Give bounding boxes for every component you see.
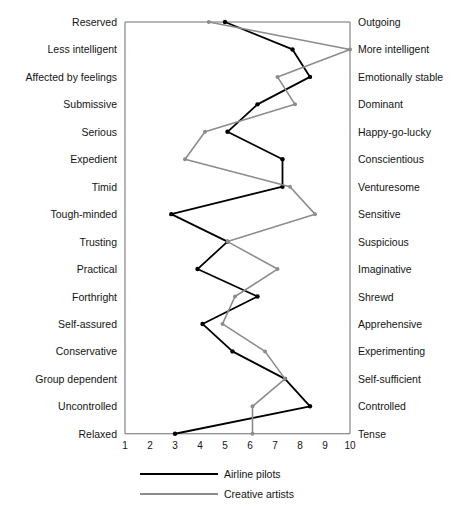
data-point bbox=[200, 322, 204, 326]
data-point bbox=[308, 75, 312, 79]
trait-label-left: Uncontrolled bbox=[58, 401, 117, 412]
legend-label: Creative artists bbox=[224, 488, 294, 500]
data-point bbox=[288, 185, 292, 189]
trait-label-right: Happy-go-lucky bbox=[358, 126, 431, 137]
plot-frame bbox=[125, 22, 350, 434]
data-point bbox=[293, 102, 297, 106]
data-point bbox=[183, 157, 187, 161]
data-point bbox=[169, 212, 173, 216]
data-point bbox=[226, 240, 230, 244]
trait-label-right: Imaginative bbox=[358, 264, 412, 275]
data-point bbox=[263, 349, 267, 353]
trait-label-right: Experimenting bbox=[358, 346, 425, 357]
series-airline-pilots bbox=[169, 20, 312, 436]
legend-item[interactable]: Airline pilots bbox=[140, 468, 281, 480]
trait-label-left: Timid bbox=[92, 181, 117, 192]
trait-label-left: Trusting bbox=[79, 236, 117, 247]
trait-label-right: More intelligent bbox=[358, 44, 429, 55]
x-tick-label: 6 bbox=[247, 440, 253, 451]
data-point bbox=[230, 349, 234, 353]
data-point bbox=[276, 267, 280, 271]
trait-label-right: Controlled bbox=[358, 401, 406, 412]
x-tick-label: 5 bbox=[222, 440, 228, 451]
trait-label-left: Affected by feelings bbox=[26, 71, 117, 82]
trait-label-left: Submissive bbox=[63, 99, 117, 110]
data-point bbox=[283, 377, 287, 381]
data-point bbox=[223, 20, 227, 24]
data-point bbox=[195, 267, 199, 271]
series-creative-artists bbox=[183, 20, 352, 436]
data-point bbox=[276, 75, 280, 79]
trait-label-left: Group dependent bbox=[35, 373, 117, 384]
x-tick-label: 10 bbox=[344, 440, 355, 451]
trait-label-left: Relaxed bbox=[78, 428, 117, 439]
trait-label-left: Expedient bbox=[70, 154, 117, 165]
data-point bbox=[251, 432, 255, 436]
data-point bbox=[173, 432, 177, 436]
legend-line-icon bbox=[140, 473, 218, 475]
data-point bbox=[308, 404, 312, 408]
data-point bbox=[251, 404, 255, 408]
trait-label-left: Less intelligent bbox=[48, 44, 117, 55]
trait-label-left: Forthright bbox=[72, 291, 117, 302]
x-tick-label: 4 bbox=[197, 440, 203, 451]
trait-label-right: Dominant bbox=[358, 99, 403, 110]
trait-label-left: Self-assured bbox=[58, 318, 117, 329]
trait-label-right: Venturesome bbox=[358, 181, 420, 192]
x-tick-label: 7 bbox=[272, 440, 278, 451]
series-group bbox=[169, 20, 352, 436]
trait-label-right: Suspicious bbox=[358, 236, 409, 247]
data-point bbox=[225, 130, 229, 134]
trait-label-left: Tough-minded bbox=[50, 209, 117, 220]
x-tick-label: 2 bbox=[147, 440, 153, 451]
trait-label-left: Conservative bbox=[56, 346, 117, 357]
data-point bbox=[221, 322, 225, 326]
x-tick-label: 9 bbox=[322, 440, 328, 451]
trait-label-right: Apprehensive bbox=[358, 318, 422, 329]
trait-label-right: Shrewd bbox=[358, 291, 394, 302]
data-point bbox=[348, 47, 352, 51]
data-point bbox=[280, 157, 284, 161]
trait-label-right: Outgoing bbox=[358, 17, 401, 28]
data-point bbox=[233, 295, 237, 299]
data-point bbox=[313, 212, 317, 216]
x-tick-label: 3 bbox=[172, 440, 178, 451]
series-line bbox=[185, 22, 350, 434]
x-tick-label: 1 bbox=[122, 440, 128, 451]
legend-item[interactable]: Creative artists bbox=[140, 488, 294, 500]
trait-label-left: Practical bbox=[77, 264, 117, 275]
trait-label-left: Serious bbox=[81, 126, 117, 137]
data-point bbox=[203, 130, 207, 134]
trait-label-right: Tense bbox=[358, 428, 386, 439]
data-point bbox=[255, 294, 259, 298]
data-point bbox=[207, 20, 211, 24]
plot-border bbox=[125, 22, 350, 434]
data-point bbox=[255, 102, 259, 106]
trait-label-right: Conscientious bbox=[358, 154, 424, 165]
trait-label-right: Sensitive bbox=[358, 209, 401, 220]
personality-profile-chart: ReservedLess intelligentAffected by feel… bbox=[0, 0, 475, 509]
trait-label-right: Emotionally stable bbox=[358, 71, 443, 82]
series-line bbox=[171, 22, 310, 434]
legend-label: Airline pilots bbox=[224, 468, 281, 480]
trait-label-right: Self-sufficient bbox=[358, 373, 421, 384]
legend-line-icon bbox=[140, 493, 218, 495]
data-point bbox=[290, 47, 294, 51]
trait-label-left: Reserved bbox=[72, 17, 117, 28]
x-tick-label: 8 bbox=[297, 440, 303, 451]
